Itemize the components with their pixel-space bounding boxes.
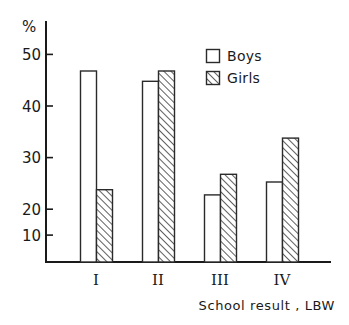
x-axis-category-labels: I II III IV xyxy=(93,271,292,289)
bar-girls-III[interactable] xyxy=(221,174,237,262)
legend-swatch-boys xyxy=(207,50,220,63)
bar-girls-I[interactable] xyxy=(97,190,113,262)
x-label-II: II xyxy=(152,271,164,289)
y-tick-label-10: 10 xyxy=(22,227,41,245)
y-axis-ticks: 50 40 30 20 10 xyxy=(22,46,53,261)
y-tick-label-40: 40 xyxy=(22,98,41,116)
x-label-I: I xyxy=(93,271,99,289)
chart-legend: Boys Girls xyxy=(207,48,262,86)
y-tick-label-50: 50 xyxy=(22,46,41,64)
x-label-IV: IV xyxy=(274,271,292,289)
y-axis-unit-label: % xyxy=(22,18,36,36)
bar-group-IV xyxy=(267,138,299,262)
legend-label-boys: Boys xyxy=(227,48,262,64)
bar-boys-I[interactable] xyxy=(81,71,97,262)
x-label-III: III xyxy=(211,271,229,289)
bar-group-III xyxy=(205,174,237,262)
x-axis-title: School result , LBW xyxy=(199,298,335,313)
legend-swatch-girls xyxy=(207,72,220,85)
bar-boys-III[interactable] xyxy=(205,195,221,262)
legend-label-girls: Girls xyxy=(227,70,260,86)
bar-group-I xyxy=(81,71,113,262)
y-tick-label-30: 30 xyxy=(22,149,41,167)
bar-boys-II[interactable] xyxy=(143,81,159,262)
chart-canvas: % 50 40 30 20 10 xyxy=(0,0,349,325)
bar-group-II xyxy=(143,71,175,262)
bar-boys-IV[interactable] xyxy=(267,182,283,262)
y-tick-label-20: 20 xyxy=(22,201,41,219)
bar-girls-IV[interactable] xyxy=(283,138,299,262)
bar-girls-II[interactable] xyxy=(159,71,175,262)
bar-chart-figure: % 50 40 30 20 10 xyxy=(0,0,349,325)
